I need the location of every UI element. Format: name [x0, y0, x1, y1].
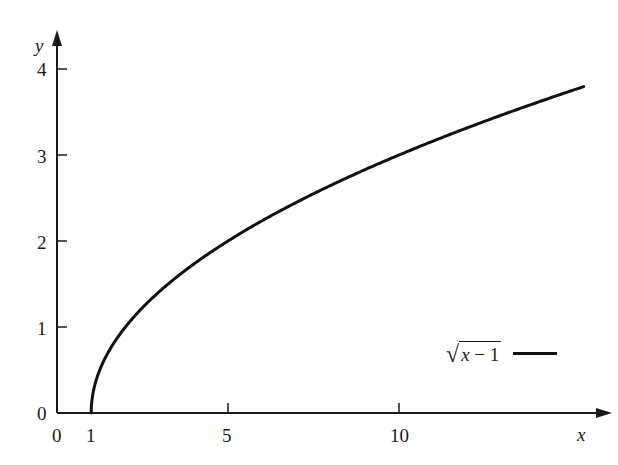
x-axis-arrow-icon [596, 408, 612, 418]
x-tick-label-1: 1 [86, 426, 96, 445]
y-tick-label-0: 0 [37, 404, 47, 423]
x-ticks [228, 403, 399, 413]
y-tick-label-3: 3 [37, 147, 47, 166]
plot-area [0, 0, 618, 465]
legend-line-swatch [513, 352, 557, 355]
y-ticks [57, 69, 67, 327]
radical-icon: √ [446, 342, 459, 366]
x-tick-label-0: 0 [52, 426, 62, 445]
x-tick-label-5: 5 [222, 426, 232, 445]
y-tick-label-2: 2 [37, 233, 47, 252]
legend: √x − 1 [446, 340, 557, 366]
x-tick-label-10: 10 [390, 426, 409, 445]
y-tick-label-1: 1 [37, 319, 47, 338]
x-axis-label: x [577, 425, 585, 444]
legend-radicand: x − 1 [459, 341, 501, 366]
y-axis-label: y [35, 36, 43, 55]
y-axis-arrow-icon [52, 30, 62, 46]
y-tick-label-4: 4 [37, 60, 47, 79]
legend-label: √x − 1 [446, 341, 501, 366]
